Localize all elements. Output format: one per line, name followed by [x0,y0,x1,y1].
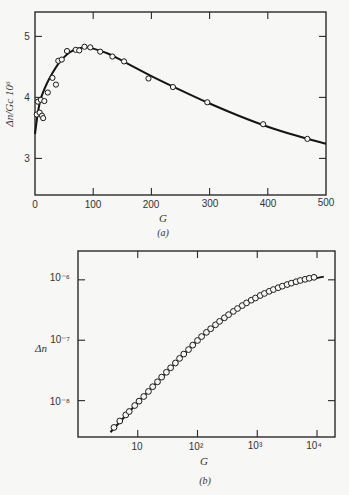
data-point-marker [311,274,317,280]
data-point-marker [50,75,55,80]
data-point-marker [141,394,147,400]
data-point-marker [261,122,266,127]
x-tick-label: 300 [202,198,219,209]
plot-frame-a [35,12,326,195]
data-point-marker [42,98,47,103]
data-point-marker [136,398,142,404]
data-point-marker [117,418,123,424]
y-tick-label: 3 [24,153,30,164]
data-point-marker [82,44,87,49]
data-point-marker [64,48,69,53]
data-point-marker [59,57,64,62]
x-tick-label: 10 [131,441,143,452]
data-point-marker [150,384,156,390]
x-tick-label: 500 [318,197,335,208]
y-tick-label: 5 [24,31,30,42]
data-point-marker [146,389,152,395]
caption-b: (b) [199,475,211,487]
y-axis-title-b: Δn [34,342,47,354]
x-axis-title-a: G [159,212,167,224]
data-point-marker [111,425,117,431]
x-tick-label: 0 [32,199,38,210]
x-tick-label: 100 [85,199,102,210]
x-axis-title-b: G [200,455,208,467]
data-point-marker [190,342,196,348]
x-tick-label: 10² [189,441,204,452]
y-axis-title-a: Δn/Gc 10⁶ [3,81,15,128]
data-point-marker [110,54,115,59]
data-point-marker [168,365,174,371]
y-tick-label: 10⁻⁸ [50,396,70,407]
fit-curve-b [111,277,324,433]
caption-a: (a) [157,227,169,239]
y-tick-label: 10⁻⁶ [50,272,70,283]
data-point-marker [126,409,132,415]
data-point-marker [41,116,46,121]
data-point-marker [77,48,82,53]
chart-panel-b: 10 10² 10³ 10⁴ 10⁻⁸ 10⁻⁷ 10⁻⁶ G Δn (b) [34,251,335,487]
fit-line [111,277,324,433]
data-point-marker [170,84,175,89]
data-point-marker [53,82,58,87]
fit-line [35,47,326,143]
data-point-marker [205,100,210,105]
figure: 0 100 200 300 400 500 3 4 5 G Δn/Gc 10⁶ … [0,0,349,495]
x-tick-label: 10⁴ [306,440,321,451]
data-point-marker [45,90,50,95]
x-tick-label: 200 [143,199,160,210]
x-tick-label: 10³ [248,440,263,451]
data-point-marker [305,136,310,141]
data-points-b [111,274,317,430]
axis-ticks-a [35,12,326,195]
fit-curve-a [35,47,326,143]
y-tick-label: 4 [24,92,30,103]
data-point-marker [121,59,126,64]
data-point-marker [88,45,93,50]
data-point-marker [199,334,205,340]
data-point-marker [98,49,103,54]
x-tick-label: 400 [260,198,277,209]
chart-panel-a: 0 100 200 300 400 500 3 4 5 G Δn/Gc 10⁶ … [3,12,335,239]
data-point-marker [159,374,165,380]
data-point-marker [181,351,187,357]
y-tick-label: 10⁻⁷ [50,334,70,345]
data-point-marker [146,76,151,81]
